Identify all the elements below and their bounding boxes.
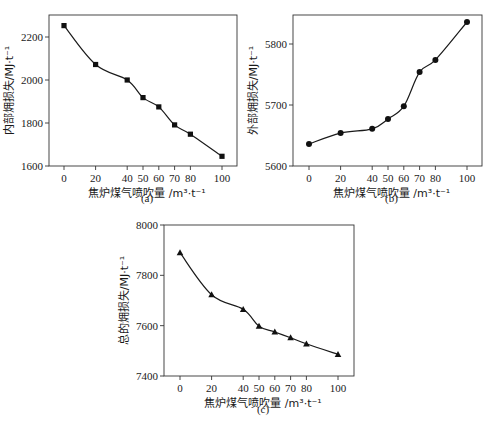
plot-frame [49, 15, 237, 166]
x-tick-label: 20 [206, 382, 218, 394]
x-tick-label: 0 [177, 382, 183, 394]
square-marker-icon [140, 95, 145, 100]
circle-marker-icon [369, 126, 375, 132]
x-tick-label: 20 [335, 172, 347, 184]
square-marker-icon [156, 104, 161, 109]
square-marker-icon [93, 62, 98, 67]
y-tick-label: 2200 [21, 31, 44, 43]
x-tick-label: 60 [153, 172, 165, 184]
x-tick-label: 60 [398, 172, 410, 184]
x-tick-label: 100 [214, 172, 231, 184]
x-tick-label: 70 [414, 172, 426, 184]
y-tick-label: 8000 [136, 219, 159, 231]
plot-frame [164, 225, 354, 376]
circle-marker-icon [417, 69, 423, 75]
x-tick-label: 0 [306, 172, 312, 184]
y-tick-label: 7400 [136, 370, 159, 382]
panel-caption: (c) [257, 403, 270, 416]
y-tick-label: 5600 [265, 160, 288, 172]
x-tick-label: 80 [430, 172, 442, 184]
triangle-marker-icon [240, 306, 247, 312]
square-marker-icon [188, 132, 193, 137]
x-tick-label: 80 [185, 172, 197, 184]
chart-panel-b: 5600570058000204050607080100焦炉煤气喷吹量 /m³·… [246, 15, 482, 205]
circle-marker-icon [401, 103, 407, 109]
circle-marker-icon [432, 57, 438, 63]
data-curve [180, 253, 338, 355]
circle-marker-icon [464, 19, 470, 25]
x-tick-label: 80 [301, 382, 313, 394]
x-tick-label: 70 [169, 172, 181, 184]
square-marker-icon [61, 23, 66, 28]
x-tick-label: 100 [459, 172, 476, 184]
y-tick-label: 5800 [265, 38, 288, 50]
y-axis-label: 总的㶲损失/MJ·t⁻¹ [117, 256, 131, 345]
y-tick-label: 7800 [136, 269, 159, 281]
circle-marker-icon [306, 141, 312, 147]
triangle-marker-icon [177, 249, 184, 255]
square-marker-icon [125, 77, 130, 82]
x-tick-label: 20 [90, 172, 102, 184]
circle-marker-icon [338, 130, 344, 136]
chart-panel-c: 74007600780080000204050607080100焦炉煤气喷吹量 … [117, 219, 354, 416]
x-tick-label: 40 [122, 172, 134, 184]
y-tick-label: 7600 [136, 320, 159, 332]
x-tick-label: 50 [383, 172, 395, 184]
square-marker-icon [172, 122, 177, 127]
x-tick-label: 40 [238, 382, 250, 394]
y-tick-label: 2000 [21, 74, 44, 86]
x-tick-label: 60 [269, 382, 281, 394]
x-tick-label: 50 [254, 382, 266, 394]
panel-caption: (a) [141, 192, 154, 205]
y-axis-label: 内部㶲损失/MJ·t⁻¹ [2, 46, 16, 135]
x-tick-label: 100 [330, 382, 347, 394]
y-tick-label: 5700 [265, 99, 288, 111]
y-axis-label: 外部㶲损失/MJ·t⁻¹ [246, 46, 260, 135]
x-tick-label: 0 [61, 172, 67, 184]
circle-marker-icon [385, 116, 391, 122]
data-curve [309, 22, 467, 144]
figure-canvas: 16001800200022000204050607080100焦炉煤气喷吹量 … [0, 0, 495, 430]
y-tick-label: 1800 [21, 117, 44, 129]
x-tick-label: 70 [285, 382, 297, 394]
x-tick-label: 50 [138, 172, 150, 184]
panel-caption: (b) [385, 192, 398, 205]
data-curve [64, 26, 222, 157]
y-tick-label: 1600 [21, 160, 44, 172]
x-tick-label: 40 [367, 172, 379, 184]
chart-panel-a: 16001800200022000204050607080100焦炉煤气喷吹量 … [2, 15, 237, 205]
square-marker-icon [219, 154, 224, 159]
